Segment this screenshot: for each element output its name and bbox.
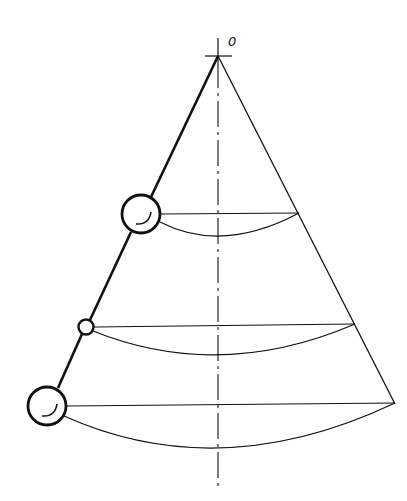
radius-line	[94, 324, 355, 327]
level-1	[160, 213, 299, 236]
origin-label: 0	[228, 34, 236, 49]
ball-large-top	[122, 195, 160, 233]
level-2	[93, 324, 355, 355]
ball-large-bottom	[28, 387, 66, 425]
conical-pendulum-diagram: 0	[0, 0, 407, 501]
arc	[93, 324, 355, 355]
radius-line	[161, 213, 299, 214]
level-3	[64, 403, 395, 448]
cone-right-edge	[218, 56, 395, 404]
arc	[64, 403, 395, 448]
radius-line	[67, 403, 395, 406]
arc	[160, 213, 299, 236]
ball-small-middle	[79, 320, 94, 335]
